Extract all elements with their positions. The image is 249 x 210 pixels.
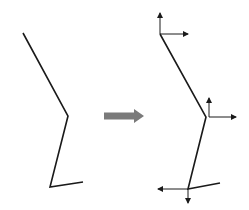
coordinate-frames (158, 13, 236, 203)
right-chain (160, 34, 220, 189)
transform-arrow-icon (104, 109, 144, 123)
frame-middle (209, 98, 236, 117)
frame-top (160, 13, 188, 34)
frame-bottom (158, 189, 188, 203)
kinematic-chain-diagram (0, 0, 249, 210)
left-chain (23, 33, 83, 187)
